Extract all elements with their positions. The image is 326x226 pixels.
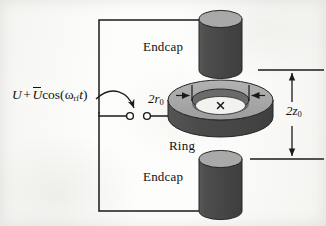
voltage-cos: cos( [42,87,65,102]
voltage-terminals[interactable] [127,113,151,120]
label-voltage-source: U+Ucos(ωrft) [12,88,87,103]
voltage-omega: ω [65,87,74,102]
voltage-ac-amplitude: U [32,88,42,102]
endcap-top-electrode [199,10,242,78]
label-ring: Ring [169,139,195,152]
endcap-bottom-electrode [199,150,242,219]
label-2r0-text: 2r [148,91,160,106]
label-2r0: 2r0 [148,92,164,107]
ion-trap-figure: Endcap Endcap Ring U+Ucos(ωrft) 2r0 2z0 [0,0,326,226]
endcap-top-top-face [199,10,242,27]
label-endcap-top: Endcap [143,40,183,53]
terminal-left-icon [127,113,134,120]
label-2z0-subscript: 0 [298,109,302,119]
voltage-pointer-arrow [96,91,134,108]
voltage-plus: + [22,87,33,102]
label-2z0: 2z0 [286,104,302,119]
voltage-dc-term: U [12,87,22,102]
diagram-canvas [0,0,326,226]
endcap-bottom-top-face [199,150,242,167]
label-2r0-subscript: 0 [160,97,164,107]
voltage-close-paren: ) [83,87,88,102]
label-endcap-bottom: Endcap [143,170,183,183]
terminal-right-icon [144,113,151,120]
ring-electrode [168,80,273,137]
label-2z0-text: 2z [286,103,298,118]
